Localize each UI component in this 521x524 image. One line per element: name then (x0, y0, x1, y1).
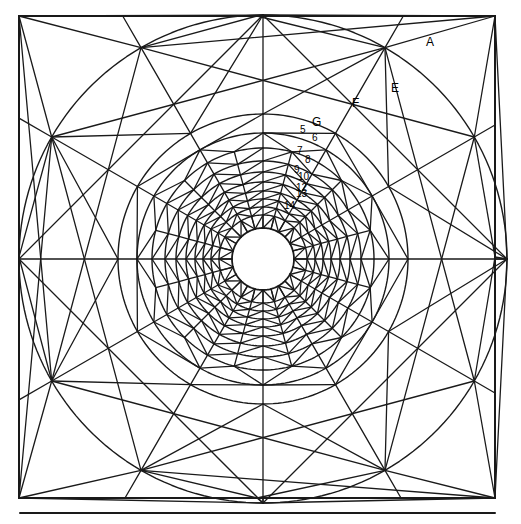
diagonal-edge (372, 259, 408, 322)
diagonal-edge (255, 215, 263, 229)
radial-edge (226, 222, 232, 228)
diagonal-edge (385, 332, 389, 471)
radial-edge (233, 207, 237, 214)
radial-edge (168, 234, 179, 237)
diagonal-edge (243, 327, 263, 333)
radial-edge (197, 275, 205, 277)
diagonal-edge (263, 201, 279, 207)
radial-edge (372, 322, 388, 332)
diagonal-edge (263, 311, 279, 317)
radial-edge (322, 293, 330, 298)
ring-label-14: 14 (284, 201, 295, 211)
radial-edge (347, 282, 358, 285)
radial-edge (205, 272, 213, 274)
radial-edge (220, 326, 225, 335)
diagonal-edge (225, 325, 246, 326)
diagonal-edge (204, 225, 205, 243)
radial-edge (188, 216, 197, 221)
radial-edge (330, 298, 339, 303)
radial-edge (285, 297, 289, 304)
radial-edge (209, 307, 215, 313)
radial-edge (289, 304, 293, 311)
diagonal-edge (245, 319, 263, 325)
diagonal-edge (218, 233, 221, 248)
diagonal-edge (361, 259, 370, 288)
transition-edge (154, 288, 156, 322)
radial-edge (283, 333, 286, 343)
diagonal-edge (315, 243, 321, 259)
outer-star-chord (141, 48, 474, 137)
diagonal-edge (188, 216, 189, 240)
diagonal-edge (218, 270, 221, 285)
radial-edge (301, 233, 308, 237)
radial-edge (300, 217, 306, 223)
radial-edge (221, 217, 227, 223)
radial-edge (137, 187, 153, 197)
diagonal-edge (263, 346, 288, 354)
radial-edge (286, 164, 289, 175)
diagonal-edge (263, 48, 385, 114)
radial-edge (215, 301, 221, 307)
diagonal-edge (196, 277, 197, 298)
diagonal-edge (141, 404, 263, 470)
radial-edge (311, 307, 317, 313)
diagonal-edge (234, 357, 263, 366)
radial-edge (326, 133, 336, 149)
diagonal-edge (178, 210, 179, 236)
radial-edge (167, 308, 178, 315)
diagonal-edge (208, 354, 238, 355)
radial-edge (233, 304, 237, 311)
radial-edge (208, 344, 215, 355)
radial-edge (359, 315, 372, 323)
radial-edge (301, 281, 308, 285)
diagonal-edge (237, 214, 252, 217)
diagonal-edge (263, 152, 292, 161)
radial-edge (312, 163, 319, 174)
radial-edge (215, 211, 221, 217)
outer-star-chord (52, 48, 141, 381)
radial-edge (315, 289, 322, 293)
radial-edge (247, 201, 249, 209)
radial-edge (358, 284, 371, 287)
radial-edge (305, 301, 311, 307)
ring-label-5: 5 (300, 125, 306, 135)
diagonal-edge (52, 137, 118, 259)
diagonal-edge (247, 311, 263, 317)
radial-edge (240, 333, 243, 343)
transition-edge (370, 196, 372, 230)
radial-edge (359, 196, 372, 204)
diagonal-edge (214, 174, 240, 175)
radial-edge (294, 222, 300, 228)
radial-edge (188, 298, 197, 303)
radial-edge (348, 204, 359, 211)
diagonal-edge (263, 404, 385, 470)
radial-edge (167, 204, 178, 211)
edge-chord (474, 137, 495, 257)
radial-edge (389, 137, 475, 187)
mesh-drawing (0, 0, 521, 524)
diagonal-edge (315, 259, 321, 275)
radial-edge (211, 229, 218, 233)
radial-edge (168, 282, 179, 285)
radial-edge (185, 181, 194, 190)
diagonal-edge (263, 164, 288, 172)
radial-edge (211, 285, 218, 289)
radial-edge (154, 196, 167, 204)
radial-edge (178, 210, 188, 216)
diagonal-edge (238, 346, 263, 354)
radial-edge (141, 48, 191, 134)
transition-edge (370, 288, 372, 322)
transition-edge (292, 366, 326, 368)
radial-edge (234, 152, 237, 165)
radial-edge (234, 354, 237, 367)
outer-star-chord (141, 381, 474, 470)
hub-spoke (232, 228, 241, 237)
diagonal-edge (263, 193, 281, 199)
radial-edge (288, 152, 291, 165)
radial-edge (238, 343, 241, 354)
radial-edge (347, 234, 358, 237)
radial-edge (308, 285, 315, 289)
radial-edge (286, 343, 289, 354)
radial-edge (337, 279, 347, 282)
radial-edge (358, 230, 371, 233)
